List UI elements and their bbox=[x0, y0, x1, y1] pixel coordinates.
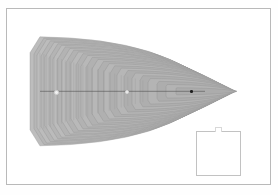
focus-point-left bbox=[54, 90, 59, 95]
figure-root bbox=[0, 0, 278, 195]
inset-box bbox=[196, 131, 241, 176]
inset-tick-icon bbox=[215, 127, 222, 132]
focus-point-right bbox=[190, 90, 193, 93]
